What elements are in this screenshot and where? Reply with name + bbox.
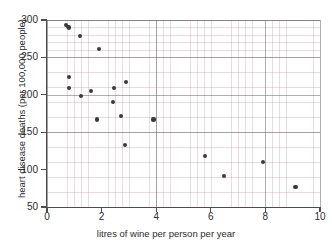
scatter-chart: 50100150200250300 0246810 heart disease … — [0, 0, 332, 245]
x-axis-tick-label: 4 — [144, 212, 168, 222]
y-axis-tick — [41, 57, 47, 58]
data-point — [151, 117, 155, 121]
y-axis-title: heart disease deaths (per 100,000 people… — [16, 9, 27, 209]
y-axis-line — [46, 19, 47, 208]
x-axis-tick-label: 6 — [199, 212, 223, 222]
data-point — [123, 143, 127, 147]
y-axis-tick — [41, 169, 47, 170]
data-point — [119, 114, 123, 118]
plot-border-top — [47, 20, 320, 21]
y-axis-tick — [41, 19, 47, 20]
x-axis-tick-label: 2 — [90, 212, 114, 222]
y-axis-tick — [41, 132, 47, 133]
plot-area — [47, 20, 320, 207]
data-point — [293, 185, 297, 189]
data-point — [89, 89, 93, 93]
x-axis-line — [46, 207, 321, 208]
x-axis-title: litres of wine per person per year — [0, 228, 332, 239]
x-axis-tick-label: 8 — [253, 212, 277, 222]
y-axis-tick — [41, 94, 47, 95]
data-point — [124, 80, 128, 84]
data-point — [95, 117, 99, 121]
plot-border-right — [320, 20, 321, 207]
major-gridlines — [47, 20, 320, 207]
data-point — [261, 160, 265, 164]
x-axis-tick-label: 10 — [308, 212, 332, 222]
x-axis-tick-label: 0 — [35, 212, 59, 222]
